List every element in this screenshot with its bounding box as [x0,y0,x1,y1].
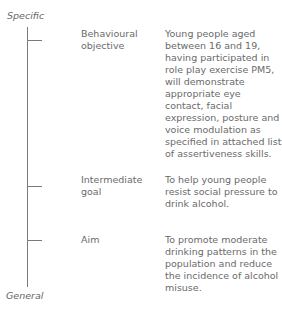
level-label-intermediate-goal: Intermediate goal [81,174,151,198]
level-label-aim: Aim [81,234,151,246]
axis-top-label: Specific [7,10,44,21]
tick-intermediate-goal [27,186,42,187]
tick-behavioural-objective [27,40,42,41]
level-description-behavioural-objective: Young people aged between 16 and 19, hav… [165,28,282,160]
axis-line [27,27,28,287]
level-description-aim: To promote moderate drinking patterns in… [165,234,282,294]
axis-bottom-label: General [6,290,43,301]
level-description-intermediate-goal: To help young people resist social press… [165,174,282,210]
tick-aim [27,240,42,241]
level-label-behavioural-objective: Behavioural objective [81,28,151,52]
